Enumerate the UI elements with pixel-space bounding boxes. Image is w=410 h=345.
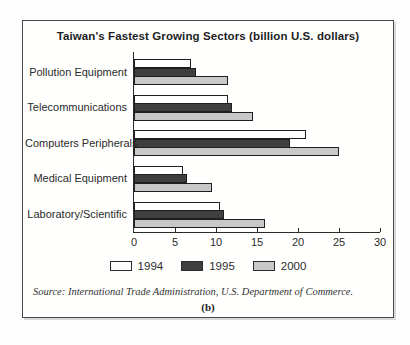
- category-label-computers-peripherals: Computers Peripherals: [25, 136, 127, 151]
- x-tick-label-20: 20: [292, 236, 304, 248]
- x-axis-tick-30: [380, 228, 381, 232]
- category-label-medical-equipment: Medical Equipment: [25, 171, 127, 186]
- bar-2000-computers-peripherals: [134, 147, 339, 156]
- category-label-telecommunications: Telecommunications: [25, 100, 127, 115]
- legend-label-2000: 2000: [281, 260, 307, 272]
- x-tick-label-5: 5: [172, 236, 178, 248]
- legend-label-1995: 1995: [209, 260, 235, 272]
- x-tick-label-0: 0: [131, 236, 137, 248]
- legend-item-1994: 1994: [110, 260, 164, 272]
- chart-title: Taiwan's Fastest Growing Sectors (billio…: [23, 30, 393, 42]
- bar-2000-telecommunications: [134, 112, 253, 121]
- category-label-laboratory-scientific: Laboratory/Scientific: [25, 207, 127, 222]
- bar-2000-pollution-equipment: [134, 76, 228, 85]
- page: Taiwan's Fastest Growing Sectors (billio…: [0, 0, 410, 345]
- legend-item-2000: 2000: [253, 260, 307, 272]
- x-tick-label-30: 30: [374, 236, 386, 248]
- x-axis-tick-5: [175, 228, 176, 232]
- legend-swatch-1994: [110, 261, 132, 271]
- x-tick-label-15: 15: [251, 236, 263, 248]
- chart-panel: Taiwan's Fastest Growing Sectors (billio…: [22, 20, 394, 318]
- x-axis-tick-20: [298, 228, 299, 232]
- plot-area: 051015202530: [133, 52, 380, 233]
- category-label-pollution-equipment: Pollution Equipment: [25, 65, 127, 80]
- figure-caption-b: (b): [23, 301, 393, 313]
- bar-2000-medical-equipment: [134, 183, 212, 192]
- legend-swatch-1995: [181, 261, 203, 271]
- x-tick-label-25: 25: [333, 236, 345, 248]
- bar-2000-laboratory-scientific: [134, 219, 265, 228]
- legend-item-1995: 1995: [181, 260, 235, 272]
- x-axis-tick-15: [257, 228, 258, 232]
- x-axis-tick-10: [216, 228, 217, 232]
- legend: 199419952000: [23, 260, 393, 272]
- x-tick-label-10: 10: [210, 236, 222, 248]
- legend-swatch-2000: [253, 261, 275, 271]
- x-axis-tick-25: [339, 228, 340, 232]
- legend-label-1994: 1994: [138, 260, 164, 272]
- source-note: Source: International Trade Administrati…: [33, 286, 353, 297]
